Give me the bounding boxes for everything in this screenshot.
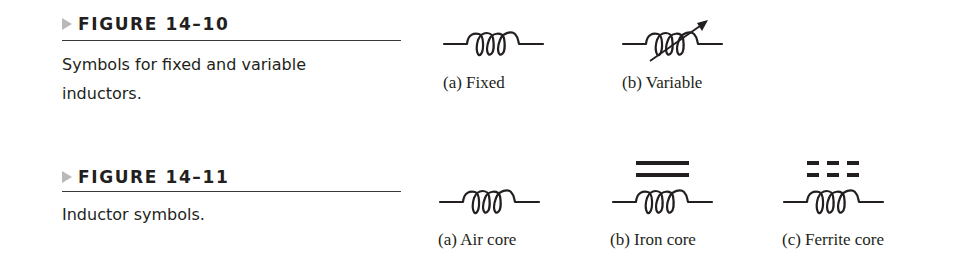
figure-number: FIGURE 14–10 <box>78 14 229 34</box>
symbol-label: (c) Ferrite core <box>782 230 884 250</box>
fixed-inductor-icon <box>438 20 558 60</box>
symbol-label: (a) Air core <box>438 230 516 250</box>
iron-core-inductor-icon <box>608 158 728 218</box>
symbol-label: (b) Iron core <box>610 230 696 250</box>
ferrite-core-inductor-icon <box>779 158 899 218</box>
figure-14-11-header: FIGURE 14–11 <box>62 167 229 187</box>
figure-rule <box>62 40 401 41</box>
air-core-inductor-icon <box>435 178 555 218</box>
variable-inductor-icon <box>618 10 748 65</box>
figure-rule <box>62 191 401 192</box>
figure-caption: Symbols for fixed and variable inductors… <box>62 50 382 108</box>
figure-caption: Inductor symbols. <box>62 200 382 229</box>
symbol-label: (a) Fixed <box>443 73 505 93</box>
triangle-marker-icon <box>62 18 72 30</box>
figure-number: FIGURE 14–11 <box>78 167 229 187</box>
figure-14-10-header: FIGURE 14–10 <box>62 14 229 34</box>
triangle-marker-icon <box>62 171 72 183</box>
symbol-label: (b) Variable <box>622 73 702 93</box>
